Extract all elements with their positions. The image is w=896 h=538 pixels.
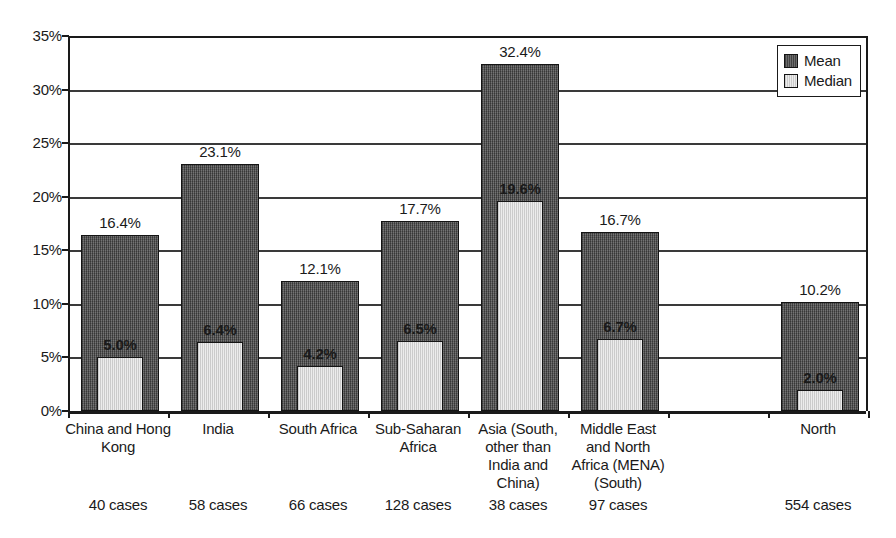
y-axis-tick-label: 25% xyxy=(0,135,62,150)
x-axis-tick-mark xyxy=(568,411,570,418)
chart-legend: MeanMedian xyxy=(777,45,861,97)
bar-group: 16.7%6.7% xyxy=(570,36,670,411)
y-axis-tick-label: 0% xyxy=(0,403,62,418)
bar-group: 23.1%6.4% xyxy=(170,36,270,411)
legend-swatch-mean-icon xyxy=(784,54,798,68)
x-axis-tick-mark xyxy=(268,411,270,418)
legend-item-mean[interactable]: Mean xyxy=(784,51,852,71)
bar-median[interactable] xyxy=(497,201,543,411)
bar-group: 12.1%4.2% xyxy=(270,36,370,411)
bar-value-label-mean: 17.7% xyxy=(370,201,470,216)
bars-layer: 16.4%5.0%23.1%6.4%12.1%4.2%17.7%6.5%32.4… xyxy=(70,36,866,411)
x-axis-case-count-labels: 40 cases58 cases66 cases128 cases38 case… xyxy=(68,496,868,526)
x-axis-category-label-line: Middle East xyxy=(556,420,680,438)
bar-chart: 0%5%10%15%20%25%30%35% 16.4%5.0%23.1%6.4… xyxy=(0,0,896,538)
bar-value-label-median: 2.0% xyxy=(770,370,870,385)
bar-median[interactable] xyxy=(797,390,843,411)
x-axis-tick-mark xyxy=(768,411,770,418)
bar-value-label-median: 4.2% xyxy=(270,346,370,361)
x-axis-category-label-line: Kong xyxy=(56,438,180,456)
bar-median[interactable] xyxy=(297,366,343,411)
x-axis-category-label: Middle Eastand NorthAfrica (MENA)(South) xyxy=(556,420,680,492)
bar-group: 32.4%19.6% xyxy=(470,36,570,411)
bar-group: 16.4%5.0% xyxy=(70,36,170,411)
bar-value-label-mean: 10.2% xyxy=(770,282,870,297)
x-axis-category-label-line: Africa (MENA) xyxy=(556,456,680,474)
y-axis-tick-label: 5% xyxy=(0,349,62,364)
plot-area: 16.4%5.0%23.1%6.4%12.1%4.2%17.7%6.5%32.4… xyxy=(68,36,868,411)
bar-value-label-median: 6.4% xyxy=(170,322,270,337)
bar-value-label-mean: 12.1% xyxy=(270,261,370,276)
y-axis-tick-label: 15% xyxy=(0,242,62,257)
bar-value-label-mean: 23.1% xyxy=(170,144,270,159)
bar-median[interactable] xyxy=(97,357,143,411)
x-axis-tick-mark xyxy=(68,411,70,418)
y-axis-tick-label: 35% xyxy=(0,28,62,43)
x-axis-category-label-line: (South) xyxy=(556,474,680,492)
x-axis-case-count-label: 97 cases xyxy=(556,496,680,514)
x-axis-tick-mark xyxy=(668,411,670,418)
x-axis-category-label-line: North xyxy=(756,420,880,438)
y-axis-tick-label: 20% xyxy=(0,189,62,204)
x-axis-tick-mark xyxy=(368,411,370,418)
x-axis-tick-mark xyxy=(168,411,170,418)
x-axis-category-label: North xyxy=(756,420,880,438)
bar-value-label-mean: 32.4% xyxy=(470,44,570,59)
x-axis-category-label-line: and North xyxy=(556,438,680,456)
bar-median[interactable] xyxy=(197,342,243,411)
legend-item-label: Median xyxy=(804,73,852,89)
bar-median[interactable] xyxy=(597,339,643,411)
y-axis-tick-label: 30% xyxy=(0,82,62,97)
bar-median[interactable] xyxy=(397,341,443,411)
bar-value-label-median: 19.6% xyxy=(470,181,570,196)
x-axis-tick-mark xyxy=(468,411,470,418)
legend-swatch-median-icon xyxy=(784,74,798,88)
bar-value-label-median: 6.5% xyxy=(370,321,470,336)
legend-item-label: Mean xyxy=(804,53,841,69)
bar-value-label-median: 6.7% xyxy=(570,319,670,334)
bar-value-label-mean: 16.4% xyxy=(70,215,170,230)
y-axis-tick-label: 10% xyxy=(0,296,62,311)
bar-value-label-median: 5.0% xyxy=(70,337,170,352)
y-axis: 0%5%10%15%20%25%30%35% xyxy=(0,0,62,538)
x-axis-case-count-label: 554 cases xyxy=(756,496,880,514)
bar-group: 17.7%6.5% xyxy=(370,36,470,411)
x-axis-ticks xyxy=(68,411,868,419)
x-axis-tick-mark xyxy=(868,411,870,418)
bar-value-label-mean: 16.7% xyxy=(570,212,670,227)
x-axis-category-labels: China and HongKongIndiaSouth AfricaSub-S… xyxy=(68,420,868,500)
legend-item-median[interactable]: Median xyxy=(784,71,852,91)
